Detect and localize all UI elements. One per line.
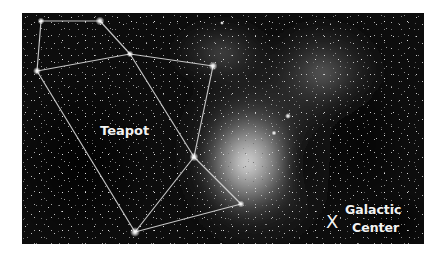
milky-way-photo: Teapot X Galactic Center (22, 13, 424, 244)
teapot-label: Teapot (100, 123, 149, 138)
galactic-center-label-line1: Galactic (345, 202, 402, 217)
galactic-center-marker: X (326, 211, 338, 232)
galactic-center-label-line2: Center (352, 220, 399, 235)
